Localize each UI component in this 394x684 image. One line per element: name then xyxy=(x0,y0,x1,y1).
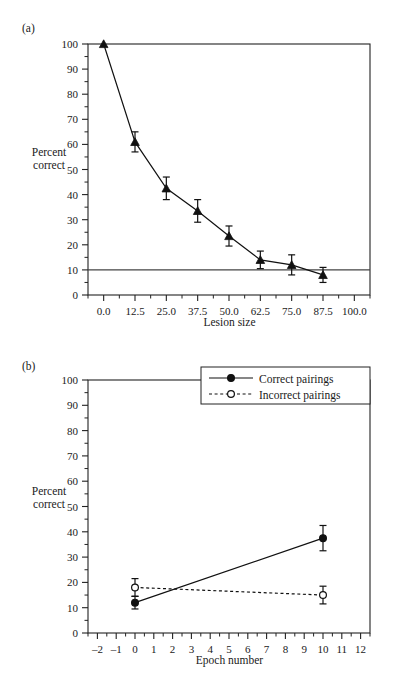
x-tick-label: 12.5 xyxy=(125,305,145,317)
x-tick-label: 2 xyxy=(170,643,176,655)
x-tick-label: 100.0 xyxy=(342,305,367,317)
x-tick-label: 37.5 xyxy=(188,305,208,317)
y-tick-label: 80 xyxy=(67,88,79,100)
series-line xyxy=(104,44,323,275)
y-tick-label: 50 xyxy=(67,164,79,176)
plot-frame xyxy=(88,380,370,633)
panel-a: (a) Percent correct Lesion size 01020304… xyxy=(0,0,394,342)
y-tick-label: 80 xyxy=(67,425,79,437)
x-tick-label: 4 xyxy=(207,643,213,655)
y-tick-label: 100 xyxy=(62,374,79,386)
y-tick-label: 0 xyxy=(73,627,79,639)
y-tick-label: 20 xyxy=(67,576,79,588)
series-line-0 xyxy=(135,538,323,603)
data-point-marker xyxy=(162,184,171,192)
y-tick-label: 60 xyxy=(67,138,79,150)
data-point-marker xyxy=(132,584,139,591)
y-tick-label: 30 xyxy=(67,551,79,563)
y-tick-label: 50 xyxy=(67,501,79,513)
series-line-1 xyxy=(135,587,323,595)
x-tick-label: 87.5 xyxy=(313,305,333,317)
y-tick-label: 10 xyxy=(67,264,79,276)
legend-label-0: Correct pairings xyxy=(259,373,334,386)
x-tick-label: 3 xyxy=(189,643,195,655)
y-tick-label: 90 xyxy=(67,399,79,411)
x-tick-label: –2 xyxy=(91,643,103,655)
x-tick-label: 12 xyxy=(355,643,366,655)
panel-a-plot: 01020304050607080901000.012.525.037.550.… xyxy=(0,0,394,342)
x-tick-label: 9 xyxy=(301,643,307,655)
data-point-marker xyxy=(320,535,327,542)
data-point-marker xyxy=(193,207,202,215)
plot-frame xyxy=(88,44,370,295)
x-tick-label: 5 xyxy=(226,643,232,655)
data-point-marker xyxy=(132,599,139,606)
legend-label-1: Incorrect pairings xyxy=(259,389,341,402)
x-tick-label: 50.0 xyxy=(219,305,239,317)
x-tick-label: 75.0 xyxy=(282,305,302,317)
x-tick-label: 11 xyxy=(337,643,348,655)
data-point-marker xyxy=(131,138,140,146)
x-tick-label: 0 xyxy=(132,643,138,655)
legend-marker-1 xyxy=(228,391,235,398)
y-tick-label: 40 xyxy=(67,526,79,538)
data-point-marker xyxy=(319,271,328,279)
y-tick-label: 70 xyxy=(67,113,79,125)
x-tick-label: 62.5 xyxy=(251,305,271,317)
y-tick-label: 60 xyxy=(67,475,79,487)
x-tick-label: 25.0 xyxy=(157,305,177,317)
y-tick-label: 100 xyxy=(62,38,79,50)
x-tick-label: 0.0 xyxy=(97,305,111,317)
y-tick-label: 30 xyxy=(67,214,79,226)
panel-b: (b) Percent correct Epoch number 0102030… xyxy=(0,342,394,684)
x-tick-label: 8 xyxy=(283,643,289,655)
y-tick-label: 20 xyxy=(67,239,79,251)
y-tick-label: 10 xyxy=(67,602,79,614)
data-point-marker xyxy=(320,592,327,599)
panel-b-plot: 0102030405060708090100–2–101234567891011… xyxy=(0,342,394,684)
y-tick-label: 0 xyxy=(73,289,79,301)
y-tick-label: 70 xyxy=(67,450,79,462)
y-tick-label: 40 xyxy=(67,189,79,201)
x-tick-label: 6 xyxy=(245,643,251,655)
legend-marker-0 xyxy=(228,375,235,382)
x-tick-label: 10 xyxy=(318,643,330,655)
x-tick-label: 7 xyxy=(264,643,270,655)
x-tick-label: 1 xyxy=(151,643,157,655)
y-tick-label: 90 xyxy=(67,63,79,75)
x-tick-label: –1 xyxy=(110,643,122,655)
